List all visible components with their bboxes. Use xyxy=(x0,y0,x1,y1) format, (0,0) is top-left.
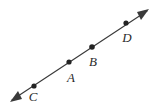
figure-canvas: C A B D xyxy=(0,0,159,109)
point-dot-d xyxy=(123,20,128,25)
geometry-figure: C A B D xyxy=(0,0,159,109)
point-label-b: B xyxy=(89,54,97,69)
point-dot-c xyxy=(31,83,36,88)
arrowhead-lower-left xyxy=(10,91,22,102)
point-dot-a xyxy=(66,59,71,64)
point-label-d: D xyxy=(121,30,132,45)
arrowhead-upper-right xyxy=(137,9,149,20)
point-dot-b xyxy=(89,44,95,50)
point-label-c: C xyxy=(29,89,38,104)
point-label-a: A xyxy=(66,70,75,85)
